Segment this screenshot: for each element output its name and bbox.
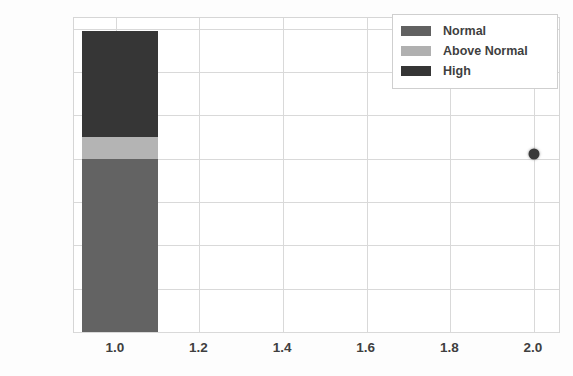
x-tick-label: 2.0 <box>503 340 563 355</box>
legend-label: Normal <box>443 24 486 38</box>
legend-label: High <box>443 64 471 78</box>
chart-figure: diastolic, mm Hg 020406080100120140 1.01… <box>0 0 573 376</box>
bar-segment-normal <box>82 159 157 332</box>
legend-swatch-icon <box>401 26 431 36</box>
gridline-vertical <box>367 18 368 332</box>
x-axis-ticks: 1.01.21.41.61.82.0 <box>0 340 573 366</box>
data-point <box>528 149 539 160</box>
bar-segment-above-normal <box>82 137 157 159</box>
legend-item[interactable]: Normal <box>401 21 549 41</box>
legend-label: Above Normal <box>443 44 528 58</box>
y-axis-title: diastolic, mm Hg <box>4 0 30 26</box>
legend: NormalAbove NormalHigh <box>392 14 558 89</box>
legend-swatch-icon <box>401 66 431 76</box>
x-tick-label: 1.0 <box>85 340 145 355</box>
x-tick-label: 1.8 <box>419 340 479 355</box>
x-tick-label: 1.6 <box>336 340 396 355</box>
gridline-horizontal <box>74 332 559 333</box>
legend-item[interactable]: High <box>401 61 549 81</box>
x-tick-label: 1.4 <box>252 340 312 355</box>
legend-swatch-icon <box>401 46 431 56</box>
x-tick-label: 1.2 <box>168 340 228 355</box>
legend-item[interactable]: Above Normal <box>401 41 549 61</box>
gridline-vertical <box>283 18 284 332</box>
gridline-vertical <box>199 18 200 332</box>
bar-segment-high <box>82 31 157 137</box>
